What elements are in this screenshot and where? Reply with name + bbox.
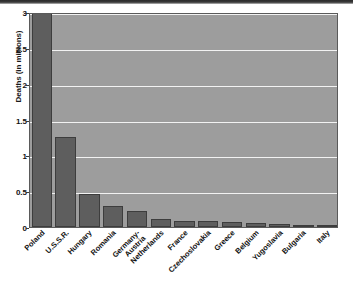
bar[interactable] — [246, 223, 266, 227]
bar[interactable] — [103, 206, 123, 228]
bar[interactable] — [127, 211, 147, 227]
bar-chart-figure: Deaths (in millions) 00.511.522.53 Polan… — [0, 0, 353, 286]
bar[interactable] — [293, 225, 313, 227]
y-axis-tick-container: 00.511.522.53 — [0, 0, 27, 286]
y-tick-label: 0 — [1, 224, 27, 233]
bar[interactable] — [151, 219, 171, 227]
y-tick-label: 1 — [1, 152, 27, 161]
bar[interactable] — [222, 222, 242, 227]
plot-area — [29, 13, 338, 228]
bar[interactable] — [55, 137, 75, 227]
bar[interactable] — [269, 224, 289, 227]
bar[interactable] — [32, 13, 52, 227]
bar[interactable] — [174, 221, 194, 227]
bar-series — [30, 14, 337, 227]
scan-artifact-band — [0, 0, 353, 4]
bar[interactable] — [198, 221, 218, 227]
x-axis-tick-container: PolandU.S.S.R.HungaryRomaniaGermany-Aust… — [29, 229, 338, 286]
y-tick-label: 0.5 — [1, 188, 27, 197]
y-tick-label: 1.5 — [1, 116, 27, 125]
y-tick-label: 2.5 — [1, 44, 27, 53]
bar[interactable] — [317, 225, 337, 227]
y-tick-label: 2 — [1, 80, 27, 89]
bar[interactable] — [79, 194, 99, 227]
y-tick-label: 3 — [1, 9, 27, 18]
